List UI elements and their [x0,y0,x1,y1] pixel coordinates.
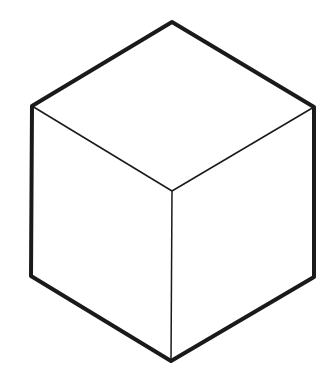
cube-edge-center-bottom [171,191,172,361]
cube-edge-center-left [32,106,172,191]
cube-diagram [0,0,336,391]
cube-edge-center-right [172,107,314,191]
